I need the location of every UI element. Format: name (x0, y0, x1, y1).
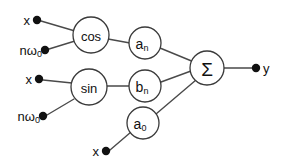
output-label-y: y (263, 61, 270, 76)
input-label-x-bottom: x (93, 144, 100, 159)
node-subscript-a_0: 0 (141, 123, 146, 133)
node-cos[interactable]: cos (73, 17, 109, 53)
edge-x-top-to-cos (41, 21, 75, 31)
input-subscript-nw0-mid: 0 (35, 115, 40, 125)
edge-nw0-mid-to-sin (47, 99, 74, 115)
node-b_n[interactable]: bn (129, 70, 161, 102)
node-label-sin: sin (81, 81, 98, 96)
node-sin[interactable]: sin (71, 69, 107, 105)
node-sigma[interactable]: Σ (190, 51, 224, 85)
input-terminal-nw0-mid[interactable]: nω0 (18, 109, 48, 126)
input-terminal-x-mid[interactable]: x (26, 72, 44, 87)
input-label-nw0-mid: nω0 (18, 109, 40, 126)
node-subscript-a_n: n (143, 43, 148, 53)
input-terminal-x-top[interactable]: x (24, 13, 42, 28)
input-terminal-x-bottom[interactable]: x (93, 144, 111, 159)
terminal-dot-x-bottom (102, 147, 110, 155)
input-label-x-top: x (24, 13, 31, 28)
node-group: cosansinbna0Σ (71, 17, 224, 139)
edge-x-mid-to-sin (43, 80, 72, 83)
input-label-nw0-top: nω0 (20, 43, 42, 60)
input-label-x-mid: x (26, 72, 33, 87)
terminal-dot-y (252, 64, 260, 72)
output-terminal-y[interactable]: y (252, 61, 270, 76)
terminal-dot-x-top (33, 16, 41, 24)
edge-nw0-top-to-cos (49, 41, 75, 49)
edge-x-bottom-to-a0 (110, 132, 131, 150)
terminal-dot-nw0-mid (39, 112, 47, 120)
terminal-dot-nw0-top (41, 46, 49, 54)
input-subscript-nw0-top: 0 (37, 49, 42, 59)
node-label-sigma: Σ (201, 59, 213, 80)
terminal-dot-x-mid (35, 75, 43, 83)
edge-an-to-sigma (160, 48, 194, 62)
diagram-canvas: cosansinbna0Σ xnω0xnω0xy (0, 0, 281, 161)
fourier-network-diagram: cosansinbna0Σ xnω0xnω0xy (0, 0, 281, 161)
edge-bn-to-sigma (161, 71, 191, 82)
edge-a0-to-sigma (156, 80, 196, 114)
node-label-cos: cos (81, 29, 102, 44)
input-terminal-nw0-top[interactable]: nω0 (20, 43, 50, 60)
node-a_0[interactable]: a0 (127, 107, 159, 139)
node-subscript-b_n: n (143, 86, 148, 96)
node-a_n[interactable]: an (129, 27, 161, 59)
edge-cos-to-an (108, 39, 130, 43)
